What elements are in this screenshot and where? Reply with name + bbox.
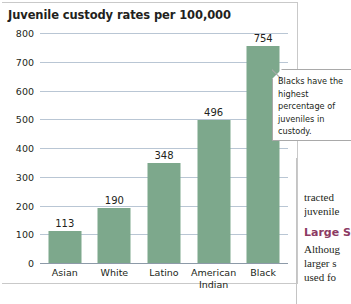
y-axis-tick-label: 700 <box>16 56 34 67</box>
bars-group: 113Asian190White348Latino496American Ind… <box>40 33 288 263</box>
x-axis-category-label: Asian <box>52 267 78 279</box>
body-line: used fo <box>304 270 351 284</box>
bar[interactable] <box>48 231 81 263</box>
bar-value-label: 190 <box>105 195 124 206</box>
bar-group-white: 190White <box>90 33 140 263</box>
y-axis-tick-label: 200 <box>16 200 34 211</box>
bar-group-asian: 113Asian <box>40 33 90 263</box>
body-line: larger s <box>304 256 351 270</box>
bar[interactable] <box>98 208 131 263</box>
bar-value-label: 754 <box>254 33 273 44</box>
y-axis-tick-label: 400 <box>16 143 34 154</box>
y-axis-tick-label: 100 <box>16 229 34 240</box>
bar-group-black: 754Black <box>238 33 288 263</box>
body-line: Althoug <box>304 242 351 256</box>
right-text-column: tracted juvenile Large S Althoug larger … <box>304 190 351 284</box>
bar[interactable] <box>147 163 180 263</box>
body-line: juvenile <box>304 204 351 218</box>
body-line: tracted <box>304 190 351 204</box>
x-axis-category-label: Black <box>250 267 276 279</box>
bar-group-american-indian: 496American Indian <box>189 33 239 263</box>
y-axis-tick-label: 800 <box>16 28 34 39</box>
column-divider <box>296 158 297 304</box>
bar-group-latino: 348Latino <box>139 33 189 263</box>
section-heading: Large S <box>304 226 351 240</box>
callout-text: Blacks have the highest percentage of ju… <box>278 75 348 138</box>
gridline-0: 0 <box>40 263 288 264</box>
bar-value-label: 348 <box>154 150 173 161</box>
bar-value-label: 113 <box>55 218 74 229</box>
y-axis-tick-label: 300 <box>16 171 34 182</box>
y-axis-tick-label: 0 <box>28 258 34 269</box>
plot-area: 0100200300400500600700800 113Asian190Whi… <box>40 33 288 263</box>
page-root: Juvenile custody rates per 100,000 01002… <box>0 0 351 304</box>
y-axis-tick-label: 600 <box>16 85 34 96</box>
bar[interactable] <box>197 120 230 263</box>
chart-title: Juvenile custody rates per 100,000 <box>8 8 231 22</box>
y-axis-tick-label: 500 <box>16 114 34 125</box>
bar-value-label: 496 <box>204 107 223 118</box>
x-axis-category-label: Latino <box>149 267 178 279</box>
x-axis-category-label: White <box>101 267 129 279</box>
x-axis-category-label: American Indian <box>191 267 236 290</box>
